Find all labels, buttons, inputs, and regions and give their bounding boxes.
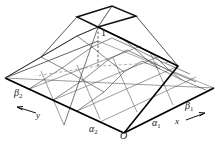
- label-axis-x: x: [175, 117, 179, 126]
- label-peak-height: 1: [101, 28, 106, 38]
- label-alpha2: α2: [89, 124, 98, 136]
- plateau-top: [77, 6, 136, 27]
- base-far-edges: [5, 41, 214, 88]
- label-alpha1: α1: [152, 118, 161, 130]
- label-axis-y: y: [36, 111, 40, 120]
- slope-crease-lines: [5, 27, 178, 125]
- label-beta2: β2: [14, 88, 22, 100]
- y-axis-arrow: [17, 107, 36, 114]
- label-origin: O: [120, 131, 127, 141]
- surface-figure: [0, 0, 219, 145]
- x-axis-arrow: [186, 113, 205, 121]
- label-beta1: β1: [185, 101, 193, 113]
